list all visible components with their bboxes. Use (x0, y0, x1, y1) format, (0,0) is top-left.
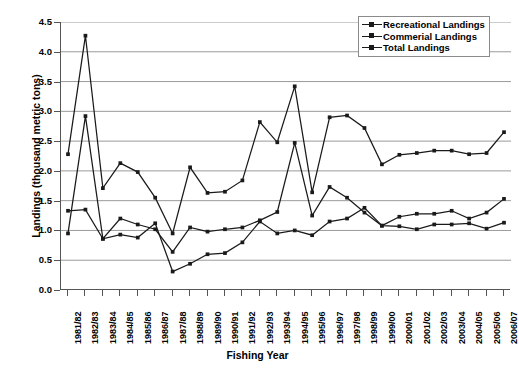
x-axis-label: 2003/04 (457, 294, 467, 344)
legend-line-marker-icon (361, 42, 383, 53)
x-axis-tick-labels: 1981/821982/831983/841984/851985/861986/… (60, 296, 510, 346)
x-axis-label: 2004/05 (474, 294, 484, 344)
y-axis-label: 4.5 (22, 18, 52, 26)
x-axis-label: 1991/92 (247, 294, 257, 344)
x-axis-label: 1981/82 (73, 294, 83, 344)
y-axis-label: 3.0 (22, 107, 52, 115)
y-axis-label: 1.0 (22, 226, 52, 234)
x-axis-label: 1982/83 (90, 294, 100, 344)
x-axis-label: 2000/01 (404, 294, 414, 344)
x-axis-label: 1996/97 (335, 294, 345, 344)
x-axis-label: 1994/95 (300, 294, 310, 344)
x-axis-label: 1999/00 (387, 294, 397, 344)
legend-label: Recreational Landings (383, 19, 485, 30)
x-axis-label: 1990/91 (230, 294, 240, 344)
x-axis-label: 1997/98 (352, 294, 362, 344)
data-series-lines (61, 22, 511, 290)
legend-label: Total Landings (383, 42, 450, 53)
legend-item: Commerial Landings (361, 31, 485, 43)
y-axis-label: 0.5 (22, 256, 52, 264)
x-axis-label: 2002/03 (439, 294, 449, 344)
x-axis-label: 1987/88 (178, 294, 188, 344)
legend-label: Commerial Landings (383, 31, 477, 42)
y-axis-tick-labels: 4.54.03.53.02.52.01.51.00.50.0 (22, 0, 52, 379)
y-axis-label: 2.5 (22, 137, 52, 145)
x-axis-label: 1984/85 (125, 294, 135, 344)
y-axis-label: 0.0 (22, 286, 52, 294)
x-axis-label: 1993/94 (282, 294, 292, 344)
x-axis-label: 2005/06 (492, 294, 502, 344)
plot-area (60, 22, 510, 290)
x-axis-label: 1998/99 (369, 294, 379, 344)
x-axis-label: 1983/84 (108, 294, 118, 344)
x-axis-label: 1992/93 (265, 294, 275, 344)
legend-item: Recreational Landings (361, 19, 485, 31)
x-axis-label: 1986/87 (160, 294, 170, 344)
legend-line-marker-icon (361, 19, 383, 30)
y-axis-label: 4.0 (22, 48, 52, 56)
y-axis-label: 2.0 (22, 167, 52, 175)
x-axis-label: 1988/89 (195, 294, 205, 344)
x-axis-label: 2001/02 (422, 294, 432, 344)
x-axis-label: 1989/90 (213, 294, 223, 344)
x-axis-label: 1995/96 (317, 294, 327, 344)
x-axis-title: Fishing Year (0, 349, 515, 361)
chart-legend: Recreational LandingsCommerial LandingsT… (358, 16, 490, 57)
y-axis-label: 3.5 (22, 78, 52, 86)
y-axis-label: 1.5 (22, 197, 52, 205)
legend-item: Total Landings (361, 42, 485, 54)
legend-line-marker-icon (361, 31, 383, 42)
x-axis-label: 1985/86 (143, 294, 153, 344)
x-axis-label: 2006/07 (509, 294, 519, 344)
